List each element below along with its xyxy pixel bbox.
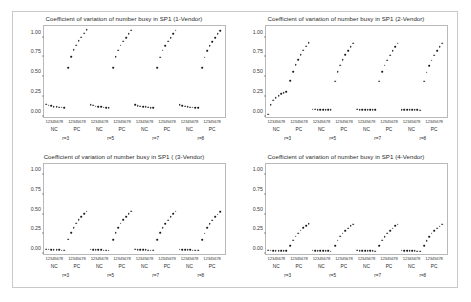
y-axis-tick-mark [42,213,44,214]
x-axis-super-label: r=5 [107,136,114,141]
data-point [53,106,55,108]
x-axis-super-label: r=8 [197,136,204,141]
x-tick-numbers-row: 1234567812345678123456781234567812345678… [265,256,448,264]
x-axis-tick-label: 12345678 [46,256,63,261]
x-axis-tick-label: 12345678 [136,119,153,124]
data-point [103,249,105,251]
data-point [150,249,152,251]
x-axis-group-label: PC [431,264,438,269]
data-point [381,71,383,73]
data-point [339,64,341,66]
x-axis-tick-label: 12345678 [68,119,85,124]
y-axis-tick-label: 0.75 [253,48,263,54]
data-point [404,250,406,252]
data-point [120,223,122,225]
x-axis-group-label: NC [141,264,148,269]
data-point [68,67,70,69]
data-point [61,249,63,251]
data-point [273,100,275,102]
y-axis-tick-label: 0.50 [253,206,263,212]
y-axis-tick-mark [264,95,266,96]
data-point [51,249,53,251]
data-point [397,43,399,45]
data-point [417,109,419,111]
x-tick-numbers-row: 1234567812345678123456781234567812345678… [43,256,226,264]
data-point [162,227,164,229]
data-point [330,250,332,252]
x-axis-tick-label: 12345678 [313,119,330,124]
data-point [209,45,211,47]
data-point [201,67,203,69]
data-point [214,216,216,218]
data-point [350,46,352,48]
x-axis-tick-label: 12345678 [380,256,397,261]
panel-4-vendor: Coefficient of variation of number busy … [235,150,457,288]
y-axis-tick-mark [42,76,44,77]
data-point [367,109,369,111]
data-point [142,106,144,108]
data-point [70,56,72,58]
y-axis-tick-mark [264,213,266,214]
data-point [165,223,167,225]
data-point [204,56,206,58]
data-point [273,250,275,252]
data-point [134,104,136,106]
panel-3-vendor: Coefficient of variation of number busy … [13,150,235,288]
y-axis-tick-mark [42,115,44,116]
x-axis-group-label: NC [51,127,58,132]
data-point [81,216,83,218]
data-point [197,250,199,252]
data-point [103,107,105,109]
panel-title: Coefficient of variation of number busy … [13,15,235,23]
x-axis-group-label: PC [386,127,393,132]
x-axis-group-label: NC [408,264,415,269]
x-axis-group-label: NC [318,264,325,269]
x-group-labels-row: NCPCNCPCNCPCNCPC [43,127,226,135]
x-group-labels-row: NCPCNCPCNCPCNCPC [265,127,448,135]
data-point [105,107,107,109]
y-axis-tick-label: 0.50 [31,206,41,212]
data-point [175,30,177,32]
data-point [187,106,189,108]
data-point [270,250,272,252]
x-axis-tick-label: 12345678 [181,256,198,261]
data-point [278,95,280,97]
x-axis-group-label: NC [318,127,325,132]
data-point [295,64,297,66]
data-point [95,105,97,107]
data-point [290,245,292,247]
plot-area[interactable]: 1.000.750.500.250.00 [265,163,448,256]
data-point [145,106,147,108]
y-axis-tick-label: 1.00 [253,166,263,172]
x-axis-tick-label: 12345678 [203,119,220,124]
data-point [147,107,149,109]
data-point [117,227,119,229]
data-point [192,107,194,109]
data-point [314,109,316,111]
data-point [70,232,72,234]
data-point [359,250,361,252]
data-point [182,249,184,251]
data-point [406,109,408,111]
x-axis-super-label: r=3 [62,273,69,278]
data-point [90,248,92,250]
plot-area[interactable]: 1.000.750.500.250.00 [43,163,226,256]
data-point [105,249,107,251]
data-point [212,41,214,43]
data-point [217,213,219,215]
data-point [100,106,102,108]
plot-area[interactable]: 1.000.750.500.250.00 [265,25,448,118]
data-point [172,33,174,35]
data-point [394,225,396,227]
data-point [117,49,119,51]
data-point [286,91,288,93]
plot-area[interactable]: 1.000.750.500.250.00 [43,25,226,118]
data-point [414,250,416,252]
x-axis: 1234567812345678123456781234567812345678… [265,118,448,150]
data-point [140,249,142,251]
data-point [78,40,80,42]
y-axis-tick-mark [42,36,44,37]
data-point [95,249,97,251]
panel-title: Coefficient of variation of number busy … [235,153,457,161]
data-point [356,109,358,111]
